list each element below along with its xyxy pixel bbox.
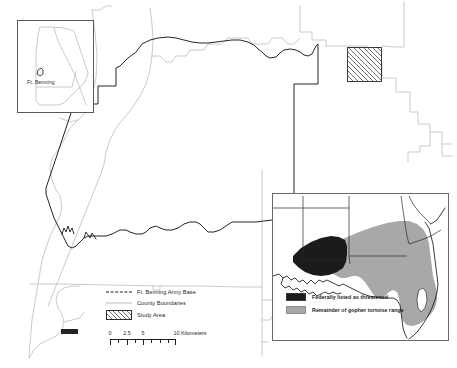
black-swatch-icon [286, 293, 306, 301]
southeast-inset-legend: Federally listed as threatened Remainder… [286, 290, 416, 316]
legend-item-study: Study Area [106, 309, 236, 320]
scale-tick-marks [110, 339, 176, 346]
black-marker-rect [61, 329, 78, 334]
ft-benning-site-marker [37, 68, 43, 76]
scale-tick-0: 0 [109, 330, 112, 336]
legend-label-study: Study Area [137, 312, 165, 318]
map-legend: Ft. Benning Army Base County Boundaries … [106, 286, 236, 321]
dashed-line-icon [106, 287, 132, 296]
study-area-box [347, 47, 382, 82]
threatened-range-polygon [293, 236, 347, 276]
map-figure: Ft. Benning Ft. Benning Army Base County… [0, 0, 457, 368]
se-legend-label-threatened: Federally listed as threatened [312, 294, 388, 300]
scale-tick-labels: 0 2.5 5 10 Kilometers [110, 330, 222, 338]
legend-item-base: Ft. Benning Army Base [106, 286, 236, 297]
hatch-swatch-icon [106, 310, 132, 320]
se-legend-label-remainder: Remainder of gopher tortoise range [312, 307, 404, 313]
southeast-us-inset: Federally listed as threatened Remainder… [272, 193, 449, 341]
solid-line-icon [106, 299, 132, 308]
se-legend-item-threatened: Federally listed as threatened [286, 290, 416, 303]
georgia-outline-svg [18, 21, 93, 112]
ft-benning-inset-label: Ft. Benning [27, 79, 55, 85]
southeast-range-svg [273, 194, 448, 340]
scale-tick-2: 5 [142, 330, 145, 336]
legend-item-county: County Boundaries [106, 298, 236, 309]
se-legend-item-remainder: Remainder of gopher tortoise range [286, 303, 416, 316]
georgia-locator-inset: Ft. Benning [17, 20, 94, 113]
gray-swatch-icon [286, 306, 306, 314]
legend-label-county: County Boundaries [137, 300, 186, 306]
legend-label-base: Ft. Benning Army Base [137, 289, 196, 295]
scale-bar: 0 2.5 5 10 Kilometers [110, 330, 222, 346]
scale-tick-1: 2.5 [123, 330, 131, 336]
scale-units-label: 10 Kilometers [174, 330, 207, 336]
